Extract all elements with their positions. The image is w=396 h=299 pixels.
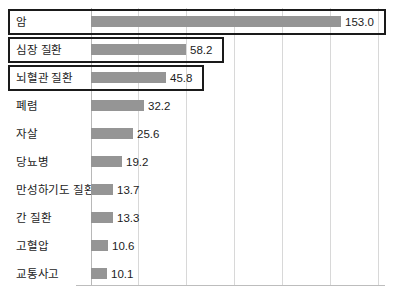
bar (91, 184, 113, 195)
bar (91, 240, 108, 251)
bar (91, 16, 341, 27)
category-label: 간 질환 (16, 204, 51, 232)
bar-value-label: 13.7 (117, 176, 139, 204)
bar (91, 100, 144, 111)
bar-row: 심장 질환58.2 (0, 36, 396, 64)
bar-value-label: 25.6 (137, 120, 159, 148)
category-label: 만성하기도 질환 (16, 176, 95, 204)
category-label: 암 (16, 8, 27, 36)
category-label: 당뇨병 (16, 148, 48, 176)
bar-row: 폐렴32.2 (0, 92, 396, 120)
category-label: 고혈압 (16, 232, 48, 260)
bar-value-label: 32.2 (148, 92, 170, 120)
bar-value-label: 19.2 (126, 148, 148, 176)
category-label: 폐렴 (16, 92, 38, 120)
category-label: 자살 (16, 120, 38, 148)
category-label: 교통사고 (16, 260, 59, 288)
bar-value-label: 58.2 (190, 36, 212, 64)
bar (91, 44, 186, 55)
bar (91, 72, 166, 83)
bar-row: 뇌혈관 질환45.8 (0, 64, 396, 92)
bar (91, 268, 107, 279)
bar-row: 간 질환13.3 (0, 204, 396, 232)
bar (91, 156, 122, 167)
bar-value-label: 13.3 (117, 204, 139, 232)
bar-value-label: 10.1 (111, 260, 133, 288)
bar-chart: 암153.0심장 질환58.2뇌혈관 질환45.8폐렴32.2자살25.6당뇨병… (0, 0, 396, 299)
bar-value-label: 10.6 (112, 232, 134, 260)
category-label: 뇌혈관 질환 (16, 64, 73, 92)
bar-row: 자살25.6 (0, 120, 396, 148)
bar-row: 당뇨병19.2 (0, 148, 396, 176)
bar-value-label: 153.0 (345, 8, 374, 36)
bar-row: 만성하기도 질환13.7 (0, 176, 396, 204)
bar-value-label: 45.8 (170, 64, 192, 92)
bar-row: 교통사고10.1 (0, 260, 396, 288)
bar (91, 212, 113, 223)
bar-row: 암153.0 (0, 8, 396, 36)
category-label: 심장 질환 (16, 36, 62, 64)
bar (91, 128, 133, 139)
bar-row: 고혈압10.6 (0, 232, 396, 260)
